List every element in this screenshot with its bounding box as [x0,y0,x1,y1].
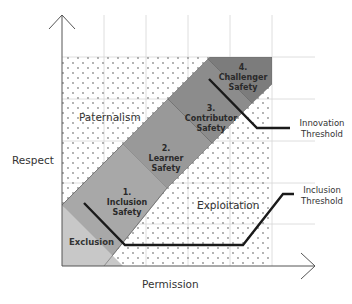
stage-3-label: 3.ContributorSafety [181,104,241,134]
paternalism-label: Paternalism [79,111,141,123]
stage-4-label: 4.ChallengerSafety [215,63,271,93]
exploitation-label: Exploitation [197,199,259,211]
exclusion-label: Exclusion [69,237,114,247]
innovation-threshold-label: InnovationThreshold [294,118,350,140]
stage-2-label: 2.LearnerSafety [141,144,191,174]
x-axis-label: Permission [142,278,199,290]
stage-1-label: 1.InclusionSafety [102,188,152,218]
inclusion-threshold-label: InclusionThreshold [296,185,348,207]
y-axis-label: Respect [12,154,54,166]
